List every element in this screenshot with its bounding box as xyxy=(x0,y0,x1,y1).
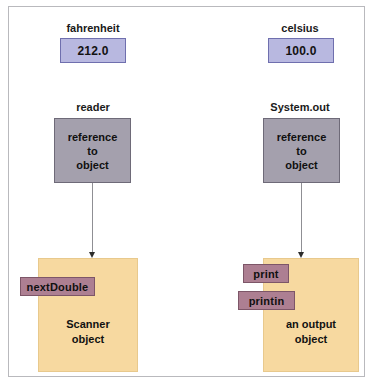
value-box-fahrenheit: 212.0 xyxy=(60,38,126,63)
reference-box-system-out: reference to object xyxy=(263,118,340,183)
reference-line-3: object xyxy=(285,158,317,172)
reference-label-reader: reader xyxy=(38,101,148,113)
method-tab-println[interactable]: printin xyxy=(238,291,295,310)
reference-line-3: object xyxy=(76,158,108,172)
reference-box-reader: reference to object xyxy=(54,118,131,183)
object-caption-line-1: Scanner xyxy=(39,317,137,332)
method-tab-print[interactable]: print xyxy=(243,264,289,283)
object-caption-line-1: an output xyxy=(264,317,358,332)
reference-line-1: reference xyxy=(277,130,327,144)
arrow-system-out-to-output-object xyxy=(297,183,306,258)
cut-off-header-text xyxy=(0,0,373,5)
object-caption-line-2: object xyxy=(39,332,137,347)
value-box-celsius: 100.0 xyxy=(268,38,334,63)
variable-label-celsius: celsius xyxy=(245,22,355,34)
object-box-scanner: Scanner object xyxy=(38,258,138,372)
variable-label-fahrenheit: fahrenheit xyxy=(38,22,148,34)
object-caption-line-2: object xyxy=(264,332,358,347)
reference-label-system-out: System.out xyxy=(245,101,355,113)
method-tab-nextdouble[interactable]: nextDouble xyxy=(20,277,95,296)
arrow-reader-to-scanner xyxy=(88,183,97,258)
reference-line-1: reference xyxy=(68,130,118,144)
diagram-canvas: fahrenheit 212.0 reader reference to obj… xyxy=(0,0,373,385)
reference-line-2: to xyxy=(296,144,306,158)
reference-line-2: to xyxy=(87,144,97,158)
